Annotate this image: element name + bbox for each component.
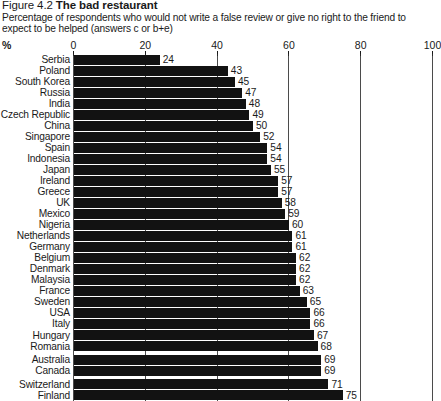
bar-row: Canada69: [0, 366, 441, 377]
bar-value-label: 69: [324, 365, 335, 377]
bar: [74, 77, 236, 87]
bar-value-label: 52: [263, 131, 274, 143]
bar: [74, 264, 297, 274]
bar-value-label: 61: [295, 241, 306, 253]
x-tick-label-20: 20: [139, 39, 151, 51]
category-label: Denmark: [30, 263, 70, 275]
bar-row: Spain54: [0, 143, 441, 154]
bar: [74, 253, 297, 263]
bar-value-label: 47: [245, 87, 256, 99]
bar: [74, 341, 318, 351]
bar-row: Singapore52: [0, 132, 441, 143]
bar: [74, 355, 322, 365]
bar-value-label: 57: [281, 186, 292, 198]
bar-value-label: 50: [256, 120, 267, 132]
category-label: India: [49, 98, 70, 110]
bar-value-label: 66: [313, 307, 324, 319]
bar: [74, 110, 250, 120]
bar-row: Czech Republic49: [0, 110, 441, 121]
bar-row: Nigeria60: [0, 220, 441, 231]
category-label: Poland: [39, 65, 70, 77]
category-label: South Korea: [15, 76, 70, 88]
bar: [74, 319, 311, 329]
category-label: Sweden: [34, 296, 70, 308]
bar-row: Belgium62: [0, 253, 441, 264]
category-label: Hungary: [33, 330, 70, 342]
category-label: Netherlands: [17, 230, 70, 242]
bar: [74, 209, 286, 219]
plot-area: Serbia24Poland43South Korea45Russia47Ind…: [0, 54, 441, 401]
x-tick-label-40: 40: [211, 39, 223, 51]
bar: [74, 66, 228, 76]
bar-row: Germany61: [0, 242, 441, 253]
bar-row: Romania68: [0, 341, 441, 352]
bar-value-label: 62: [299, 274, 310, 286]
bar: [74, 220, 289, 230]
category-label: Serbia: [41, 54, 70, 66]
bar-value-label: 49: [252, 109, 263, 121]
bar-row: India48: [0, 99, 441, 110]
category-label: Japan: [43, 164, 70, 176]
bar-value-label: 57: [281, 175, 292, 187]
bar: [74, 176, 279, 186]
bar-value-label: 55: [274, 164, 285, 176]
bar: [74, 88, 243, 98]
bar-row: Japan55: [0, 165, 441, 176]
category-label: Belgium: [34, 252, 70, 264]
category-label: Italy: [52, 318, 70, 330]
bar-row: China50: [0, 121, 441, 132]
bar-value-label: 48: [249, 98, 260, 110]
bar: [74, 275, 297, 285]
category-label: Finland: [38, 390, 70, 401]
bar-row: Malaysia62: [0, 275, 441, 286]
bar-row: Finland75: [0, 390, 441, 401]
bar: [74, 231, 293, 241]
category-label: Russia: [40, 87, 70, 99]
bar-row: Greece57: [0, 187, 441, 198]
bar-row: Poland43: [0, 66, 441, 77]
bar: [74, 132, 261, 142]
figure-container: Figure 4.2The bad restaurant Percentage …: [0, 0, 441, 401]
bar: [74, 143, 268, 153]
category-label: USA: [50, 307, 71, 319]
category-label: Indonesia: [27, 153, 70, 165]
category-label: China: [44, 120, 70, 132]
bar-row: France63: [0, 286, 441, 297]
bar: [74, 286, 300, 296]
category-label: Malaysia: [31, 274, 70, 286]
category-label: Spain: [45, 142, 70, 154]
bar-row: Serbia24: [0, 55, 441, 66]
bar: [74, 242, 293, 252]
bar-value-label: 24: [163, 54, 174, 66]
bar: [74, 198, 282, 208]
x-tick-label-100: 100: [424, 39, 441, 51]
figure-number: Figure 4.2: [2, 0, 53, 11]
category-label: Czech Republic: [1, 109, 70, 121]
category-label: Germany: [29, 241, 70, 253]
bar-value-label: 54: [270, 153, 281, 165]
bar-value-label: 68: [321, 341, 332, 353]
bar-value-label: 62: [299, 252, 310, 264]
bar-row: Italy66: [0, 319, 441, 330]
bar-row: Denmark62: [0, 264, 441, 275]
figure-name: The bad restaurant: [56, 0, 158, 11]
figure-title: Figure 4.2The bad restaurant: [2, 0, 158, 12]
bar: [74, 99, 246, 109]
bar-row: Mexico59: [0, 209, 441, 220]
category-label: Switzerland: [19, 379, 70, 391]
bar: [74, 55, 160, 65]
bar-value-label: 75: [346, 390, 357, 401]
category-label: Canada: [35, 365, 70, 377]
bar: [74, 366, 322, 376]
bar: [74, 297, 307, 307]
bar: [74, 121, 254, 131]
bar-value-label: 45: [238, 76, 249, 88]
bar-value-label: 69: [324, 354, 335, 366]
bar-row: Hungary67: [0, 330, 441, 341]
category-label: France: [39, 285, 70, 297]
bar-value-label: 61: [295, 230, 306, 242]
bar-row: Australia69: [0, 355, 441, 366]
category-label: Romania: [30, 341, 70, 353]
bar-value-label: 62: [299, 263, 310, 275]
category-label: Singapore: [25, 131, 70, 143]
